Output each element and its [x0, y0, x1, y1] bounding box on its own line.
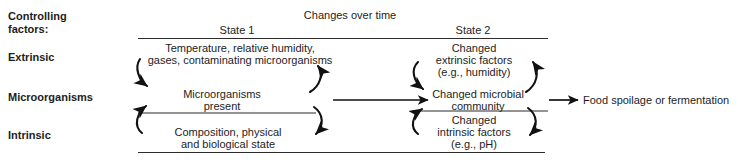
- column-header-state1: State 1: [220, 24, 255, 37]
- state2-extrinsic-line2: extrinsic factors: [436, 54, 512, 67]
- arrow-state1-micro-to-extrinsic: [310, 66, 321, 92]
- arrow-state1-extrinsic-to-micro: [137, 59, 147, 86]
- state2-microorganisms-line1: Changed microbial: [432, 88, 524, 101]
- arrow-state1-micro-to-intrinsic: [314, 107, 322, 134]
- state1-extrinsic-line1: Temperature, relative humidity,: [165, 42, 315, 55]
- row-label-extrinsic: Extrinsic: [8, 51, 54, 64]
- flow-diagram: Controlling factors: Extrinsic Microorga…: [0, 0, 738, 163]
- arrow-state2-intrinsic-to-micro: [413, 109, 422, 134]
- row-label-intrinsic: Intrinsic: [8, 129, 51, 142]
- state1-microorganisms-line1: Microorganisms: [183, 88, 261, 101]
- state2-intrinsic-line1: Changed: [452, 114, 497, 127]
- arrow-state1-intrinsic-to-micro: [137, 106, 146, 133]
- arrow-state2-micro-to-intrinsic: [528, 108, 536, 135]
- arrow-state2-micro-to-extrinsic: [526, 62, 537, 92]
- state1-extrinsic-line2: gases, contaminating microorganisms: [148, 54, 333, 67]
- state2-intrinsic-line3: (e.g., pH): [451, 138, 497, 151]
- controlling-factors-heading-line2: factors:: [8, 23, 48, 36]
- state1-intrinsic-line1: Composition, physical: [175, 126, 282, 139]
- row-label-microorganisms: Microorganisms: [8, 91, 93, 104]
- state1-intrinsic-line2: and biological state: [181, 138, 275, 151]
- changes-over-time-header: Changes over time: [304, 9, 396, 22]
- column-header-state2: State 2: [456, 24, 491, 37]
- diagram-lines-layer: [0, 0, 738, 163]
- state2-extrinsic-line1: Changed: [452, 42, 497, 55]
- arrow-state2-extrinsic-to-micro: [414, 62, 423, 89]
- controlling-factors-heading-line1: Controlling: [8, 10, 67, 23]
- outcome-label: Food spoilage or fermentation: [583, 94, 729, 107]
- state2-microorganisms-line2: community: [451, 100, 504, 113]
- state2-intrinsic-line2: intrinsic factors: [437, 126, 510, 139]
- state2-extrinsic-line3: (e.g., humidity): [438, 66, 511, 79]
- state1-microorganisms-line2: present: [204, 100, 241, 113]
